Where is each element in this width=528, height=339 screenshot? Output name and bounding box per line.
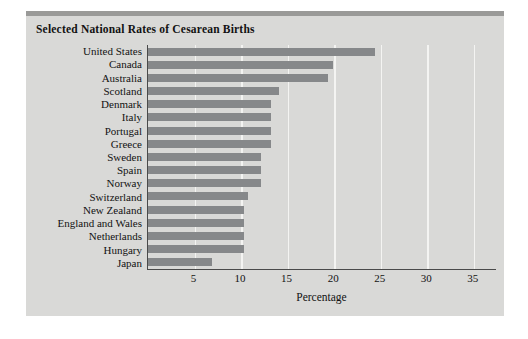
category-label: Spain [36,164,147,177]
bar-row [148,243,496,256]
bar [148,48,375,56]
x-axis-title: Percentage [147,291,496,303]
bar [148,206,244,214]
bar-row [148,190,496,203]
bar [148,258,212,266]
x-tick-label: 15 [281,272,292,284]
category-label: Sweden [36,151,147,164]
bar [148,232,244,240]
category-label: United States [36,45,147,58]
category-label: Greece [36,138,147,151]
category-label: Canada [36,58,147,71]
bar-row [148,150,496,163]
bar-row [148,256,496,269]
category-label: Switzerland [36,191,147,204]
category-label: Italy [36,111,147,124]
bar-row [148,85,496,98]
panel-top-band [26,11,504,16]
category-label: Australia [36,71,147,84]
bar [148,87,279,95]
bar [148,192,248,200]
category-label: Norway [36,177,147,190]
bar [148,166,261,174]
bar-row [148,203,496,216]
bar-row [148,98,496,111]
chart-figure: Selected National Rates of Cesarean Birt… [0,0,528,339]
plot-area [147,45,496,270]
chart-title: Selected National Rates of Cesarean Birt… [36,23,255,35]
bar [148,61,333,69]
category-label: Japan [36,257,147,270]
plot-wrapper: United StatesCanadaAustraliaScotlandDenm… [36,45,496,295]
bar [148,140,271,148]
bar-row [148,229,496,242]
category-label: Scotland [36,85,147,98]
category-label: New Zealand [36,204,147,217]
bar [148,153,261,161]
bar [148,219,244,227]
bar-row [148,71,496,84]
x-tick-label: 10 [235,272,246,284]
x-tick-label: 20 [328,272,339,284]
bar-row [148,177,496,190]
bar-row [148,124,496,137]
category-axis-labels: United StatesCanadaAustraliaScotlandDenm… [36,45,147,270]
x-tick-label: 25 [374,272,385,284]
category-label: Portugal [36,124,147,137]
category-label: Denmark [36,98,147,111]
bar [148,100,271,108]
bar-series [148,45,496,269]
x-tick-label: 35 [467,272,478,284]
x-tick-label: 5 [191,272,197,284]
bar-row [148,137,496,150]
category-label: England and Wales [36,217,147,230]
bar-row [148,111,496,124]
category-label: Hungary [36,244,147,257]
bar [148,113,271,121]
bar-row [148,45,496,58]
bar [148,74,328,82]
bar-row [148,58,496,71]
bar [148,179,261,187]
bar [148,127,271,135]
category-label: Netherlands [36,230,147,243]
bar-row [148,216,496,229]
x-axis-tick-labels: 5101520253035 [147,272,496,288]
x-tick-label: 30 [421,272,432,284]
bar-row [148,164,496,177]
bar [148,245,244,253]
